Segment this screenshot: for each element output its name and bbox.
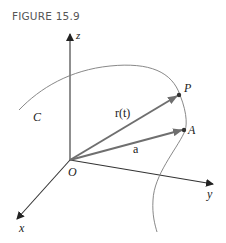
origin-label: O (68, 165, 77, 179)
curve-label: C (33, 110, 42, 124)
y-axis (70, 160, 213, 184)
point-a-dot (182, 128, 186, 132)
vector-r-label: r(t) (115, 106, 130, 120)
vector-a-label: a (133, 142, 139, 156)
point-p-dot (177, 93, 181, 97)
x-axis-label: x (18, 221, 25, 235)
x-axis (17, 160, 70, 219)
curve-c (19, 65, 186, 232)
z-axis-label: z (75, 29, 81, 41)
vector-a (70, 130, 182, 160)
point-p-label: P (183, 81, 192, 95)
y-axis-label: y (206, 187, 213, 201)
point-a-label: A (187, 123, 196, 137)
vector-diagram: z y x O C P A r(t) a (0, 0, 226, 243)
